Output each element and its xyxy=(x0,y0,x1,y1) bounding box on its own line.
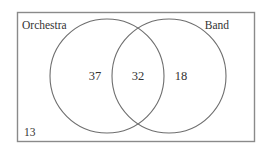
orchestra-only-count: 37 xyxy=(89,69,102,83)
orchestra-set-circle xyxy=(50,19,164,133)
intersection-count: 32 xyxy=(132,69,145,83)
venn-diagram-page: Orchestra Band 37 32 18 13 xyxy=(0,0,265,152)
orchestra-set-label: Orchestra xyxy=(22,19,67,31)
band-set-circle xyxy=(112,19,226,133)
venn-diagram-canvas: Orchestra Band 37 32 18 13 xyxy=(0,0,265,152)
band-set-label: Band xyxy=(205,19,230,31)
outside-count: 13 xyxy=(24,126,36,138)
band-only-count: 18 xyxy=(175,69,188,83)
